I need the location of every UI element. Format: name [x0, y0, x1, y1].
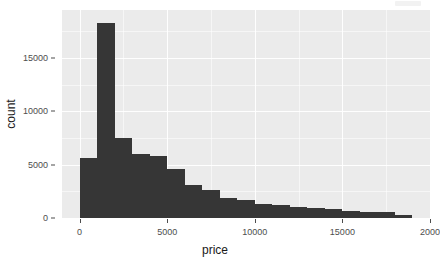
- y-axis-tick-mark: [51, 111, 55, 112]
- histogram-bar: [342, 211, 360, 218]
- y-axis-tick-mark: [51, 58, 55, 59]
- histogram-bar: [115, 138, 133, 218]
- x-axis-tick-mark: [167, 219, 168, 223]
- x-axis-tick-mark: [342, 219, 343, 223]
- scan-artifact: [395, 1, 421, 6]
- x-axis-tick-label: 5000: [157, 227, 177, 237]
- x-axis-title: price: [0, 243, 430, 257]
- plot-panel: [62, 10, 430, 218]
- x-axis-tick-label: 10000: [242, 227, 267, 237]
- histogram-bar: [307, 208, 325, 218]
- x-axis: 0500010000150002000: [0, 218, 430, 246]
- histogram-bar: [80, 158, 98, 218]
- histogram-bar: [185, 185, 203, 218]
- histogram-bar: [237, 200, 255, 218]
- histogram-bar: [167, 169, 185, 218]
- y-axis-title: count: [4, 99, 18, 128]
- histogram-bar: [325, 209, 343, 218]
- x-axis-tick-mark: [430, 219, 431, 223]
- y-axis-tick-mark: [51, 164, 55, 165]
- histogram-bar: [220, 198, 238, 218]
- histogram-bar: [202, 190, 220, 218]
- y-axis-tick-label: 5000: [28, 160, 48, 170]
- histogram-bar: [255, 204, 273, 218]
- x-axis-tick-label: 0: [77, 227, 82, 237]
- y-axis-tick-label: 10000: [23, 106, 48, 116]
- histogram-bars: [62, 10, 430, 218]
- histogram-bar: [150, 156, 168, 218]
- histogram-bar: [290, 207, 308, 218]
- x-axis-tick-mark: [80, 219, 81, 223]
- histogram-bar: [132, 154, 150, 218]
- x-axis-tick-mark: [255, 219, 256, 223]
- x-axis-tick-label: 2000: [420, 227, 440, 237]
- histogram-bar: [97, 23, 115, 218]
- histogram-bar: [272, 205, 290, 218]
- y-axis-tick-label: 15000: [23, 53, 48, 63]
- x-axis-tick-label: 15000: [330, 227, 355, 237]
